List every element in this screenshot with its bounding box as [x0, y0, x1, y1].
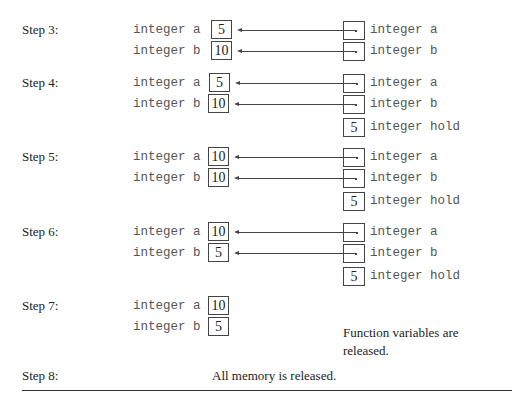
caller-var-a-name: integer a: [133, 22, 201, 38]
reference-arrow-a: [237, 157, 357, 158]
func-var-a-name: integer a: [370, 75, 438, 91]
caller-var-a-box: 10: [208, 147, 229, 166]
caller-var-a-box: 10: [208, 222, 229, 241]
func-var-a-name: integer a: [370, 224, 438, 240]
func-var-b-name: integer b: [370, 43, 438, 59]
step-4-label: Step 4:: [22, 75, 58, 91]
pointer-dot-icon: [356, 232, 358, 234]
pointer-dot-icon: [356, 157, 358, 159]
func-var-hold-name: integer hold: [370, 119, 460, 135]
pointer-dot-icon: [355, 30, 357, 32]
func-ref-b-box: [343, 244, 365, 263]
func-ref-a-box: [343, 21, 365, 40]
func-ref-b-box: [343, 95, 365, 114]
caller-var-b-name: integer b: [133, 170, 201, 186]
memory-release-note: All memory is released.: [212, 367, 336, 385]
func-var-hold-name: integer hold: [370, 268, 460, 284]
caller-var-b-name: integer b: [133, 319, 201, 335]
bottom-rule: [22, 390, 512, 391]
step-5-label: Step 5:: [22, 149, 58, 165]
step-3-label: Step 3:: [22, 22, 58, 38]
function-release-note-line1: Function variables are: [343, 324, 459, 342]
pointer-dot-icon: [355, 104, 357, 106]
caller-var-a-box: 10: [208, 296, 229, 315]
func-var-b-name: integer b: [370, 96, 438, 112]
func-var-a-name: integer a: [370, 22, 438, 38]
func-ref-b-box: [343, 169, 365, 188]
caller-var-a-box: 5: [211, 20, 232, 39]
step-6-label: Step 6:: [22, 224, 58, 240]
func-ref-a-box: [343, 148, 365, 167]
step-7-label: Step 7:: [22, 298, 58, 314]
step-8-label: Step 8:: [22, 368, 58, 384]
caller-var-a-name: integer a: [133, 224, 201, 240]
func-var-a-name: integer a: [370, 149, 438, 165]
caller-var-a-box: 5: [209, 73, 230, 92]
func-var-hold-name: integer hold: [370, 193, 460, 209]
caller-var-b-box: 10: [208, 168, 229, 187]
caller-var-b-box: 10: [211, 41, 232, 60]
caller-var-a-name: integer a: [133, 75, 201, 91]
caller-var-b-name: integer b: [133, 96, 201, 112]
func-hold-box: 5: [343, 118, 365, 137]
func-var-b-name: integer b: [370, 170, 438, 186]
func-ref-a-box: [343, 74, 365, 93]
reference-arrow-b: [237, 104, 356, 105]
reference-arrow-a: [240, 30, 356, 31]
reference-arrow-b: [237, 253, 356, 254]
reference-arrow-a: [238, 83, 357, 84]
func-ref-a-box: [343, 223, 365, 242]
caller-var-b-box: 10: [208, 94, 229, 113]
caller-var-b-name: integer b: [133, 43, 201, 59]
function-release-note-line2: released.: [343, 342, 389, 360]
caller-var-b-box: 5: [208, 243, 229, 262]
func-hold-box: 5: [343, 192, 365, 211]
pointer-dot-icon: [355, 178, 357, 180]
pointer-dot-icon: [355, 51, 357, 53]
pointer-dot-icon: [356, 83, 358, 85]
caller-var-b-name: integer b: [133, 245, 201, 261]
reference-arrow-b: [240, 51, 356, 52]
caller-var-b-box: 5: [208, 317, 229, 336]
func-var-b-name: integer b: [370, 245, 438, 261]
reference-arrow-b: [237, 178, 356, 179]
reference-arrow-a: [237, 232, 357, 233]
caller-var-a-name: integer a: [133, 298, 201, 314]
func-ref-b-box: [343, 42, 365, 61]
pointer-dot-icon: [355, 253, 357, 255]
caller-var-a-name: integer a: [133, 149, 201, 165]
func-hold-box: 5: [343, 267, 365, 286]
